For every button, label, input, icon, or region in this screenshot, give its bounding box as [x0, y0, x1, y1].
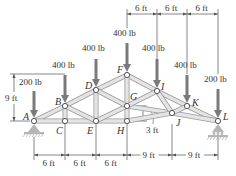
member-fill-DG [96, 90, 127, 106]
load-label-A: 200 lb [19, 77, 42, 87]
hatch-line [41, 134, 43, 137]
dim-label-bottom: 9 ft [188, 150, 201, 160]
support-roller-L [212, 124, 224, 132]
joint-label-H: H [116, 125, 125, 136]
joint-C [62, 118, 67, 123]
dim-arrowhead-icon [214, 12, 218, 15]
joint-D [93, 87, 98, 92]
roller-icon [221, 132, 224, 135]
joint-label-A: A [22, 111, 30, 122]
dim-arrowhead-icon [12, 117, 15, 121]
dim-arrowhead-icon [61, 153, 65, 156]
load-label-K: 400 lb [174, 60, 197, 70]
roller-icon [217, 132, 220, 135]
dim-label-top: 6 ft [135, 3, 148, 13]
arrow-down-icon [183, 95, 191, 103]
dim-arrowhead-icon [96, 153, 100, 156]
joint-G [124, 103, 129, 108]
hatch-line [23, 134, 25, 137]
hatch-line [210, 137, 212, 140]
arrow-down-icon [123, 64, 131, 72]
dim-arrowhead-icon [92, 153, 96, 156]
joint-label-E: E [86, 125, 93, 136]
dim-arrowhead-icon [127, 12, 131, 15]
dim-arrowhead-icon [127, 153, 131, 156]
dim-label-top: 6 ft [165, 3, 178, 13]
joint-label-D: D [84, 80, 93, 91]
dim-label-bottom: 6 ft [43, 158, 56, 168]
hatch-line [219, 137, 221, 140]
joint-F [124, 72, 129, 77]
joint-B [62, 103, 67, 108]
joint-I [154, 88, 159, 93]
joint-label-J: J [176, 117, 181, 128]
joint-K [184, 103, 189, 108]
dim-label-offset: 3 ft [146, 125, 159, 135]
supports [23, 124, 228, 140]
joint-label-F: F [116, 64, 124, 75]
joint-J [169, 110, 174, 115]
member-fill-HJ [127, 113, 172, 121]
joint-label-G: G [130, 91, 137, 102]
dim-arrowhead-icon [34, 153, 38, 156]
load-label-L: 200 lb [204, 74, 227, 84]
dim-arrowhead-icon [172, 153, 176, 156]
load-label-B: 400 lb [52, 60, 75, 70]
hatch-line [29, 134, 31, 137]
load-label-F: 400 lb [113, 28, 136, 38]
dim-label-bottom: 6 ft [105, 158, 118, 168]
dim-arrowhead-icon [214, 153, 218, 156]
dim-arrowhead-icon [12, 74, 15, 78]
arrow-down-icon [214, 110, 222, 118]
load-label-D: 400 lb [82, 43, 105, 53]
dim-arrowhead-icon [157, 12, 161, 15]
dim-arrowhead-icon [65, 153, 69, 156]
joint-L [215, 118, 220, 123]
hatch-line [32, 134, 34, 137]
truss-diagram: 6 ft6 ft6 ft6 ft6 ft6 ft9 ft9 ft9 ft3 ft… [0, 0, 236, 176]
hatch-line [225, 137, 227, 140]
roller-icon [213, 132, 216, 135]
member-fill-FI [127, 75, 157, 91]
truss-members [34, 75, 218, 121]
joint-E [93, 118, 98, 123]
hatch-line [207, 137, 209, 140]
support-pin-A [28, 124, 40, 132]
joint-A [31, 118, 36, 123]
joint-label-K: K [191, 97, 200, 108]
joint-H [124, 118, 129, 123]
hatch-line [38, 134, 40, 137]
joint-label-C: C [56, 125, 63, 136]
dim-arrowhead-icon [183, 12, 187, 15]
dim-label-bottom: 9 ft [143, 150, 156, 160]
ground-hatch-A [24, 132, 44, 134]
member-fill-DF [96, 75, 127, 90]
joint-label-L: L [222, 111, 229, 122]
dim-arrowhead-icon [123, 153, 127, 156]
hatch-line [35, 134, 37, 137]
hatch-line [26, 134, 28, 137]
arrow-down-icon [30, 110, 38, 118]
joint-label-I: I [160, 81, 165, 92]
load-label-I: 400 lb [142, 43, 165, 53]
arrow-down-icon [92, 79, 100, 87]
joint-label-B: B [55, 96, 61, 107]
dim-arrowhead-icon [187, 12, 191, 15]
dim-arrowhead-icon [168, 153, 172, 156]
member-fill-BD [65, 90, 96, 106]
dim-label-bottom: 6 ft [74, 158, 87, 168]
dim-arrowhead-icon [153, 12, 157, 15]
dim-label-top: 6 ft [196, 3, 209, 13]
dim-label-height: 9 ft [5, 93, 18, 103]
truss-canvas: 6 ft6 ft6 ft6 ft6 ft6 ft9 ft9 ft9 ft3 ft… [0, 0, 236, 176]
hatch-line [222, 137, 224, 140]
hatch-line [213, 137, 215, 140]
ground-hatch-L [208, 135, 228, 137]
